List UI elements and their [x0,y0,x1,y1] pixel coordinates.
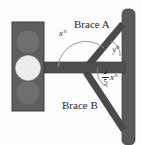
angle-x-label: x° [59,29,67,38]
brace-a-label: Brace A [74,19,110,30]
geometry-figure: Brace A Brace B x° y° 2 5 x° [0,0,142,145]
fraction-variable: x° [110,72,118,82]
fraction-stack: 2 5 [102,68,109,86]
lamp-bottom [16,81,40,105]
brace-b-label: Brace B [62,100,98,111]
angle-y-label: y° [111,45,120,55]
lamp-top [16,30,40,54]
fraction-denominator: 5 [104,79,108,87]
angle-fraction-label: 2 5 x° [102,68,118,86]
lamp-middle [16,56,41,81]
figure-canvas [0,0,142,145]
fraction-numerator: 2 [104,68,108,76]
